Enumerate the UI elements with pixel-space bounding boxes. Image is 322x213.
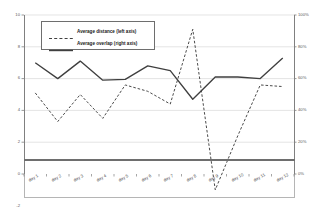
left-axis-tick-label: 6 — [2, 76, 20, 80]
left-axis-tick-label: 4 — [2, 108, 20, 112]
left-axis-line — [24, 15, 25, 174]
left-axis-tick-label: -2 — [2, 204, 20, 208]
legend-entry-average-overlap: Average overlap (right axis) — [49, 38, 137, 48]
right-axis-tick-label: 40% — [298, 108, 320, 112]
left-axis-tick-label: 10 — [2, 13, 20, 17]
legend-label-average-overlap: Average overlap (right axis) — [77, 41, 137, 46]
chart-legend: Average distance (left axis) Average ove… — [41, 21, 155, 50]
right-axis-tick-label: 100% — [298, 13, 320, 17]
chart-container: 1086420-2 100%80%60%40%20%0% day 1day 2d… — [0, 0, 322, 213]
left-axis-tick-label: 0 — [2, 172, 20, 176]
legend-entry-average-distance: Average distance (left axis) — [49, 26, 136, 36]
right-axis-tick-label: 20% — [298, 140, 320, 144]
legend-swatch-solid-icon — [49, 40, 73, 47]
right-axis-line — [294, 15, 295, 174]
right-axis-tick-label: 0% — [298, 172, 320, 176]
legend-swatch-dashed-icon — [49, 28, 73, 35]
left-axis-tick-label: 8 — [2, 45, 20, 49]
legend-label-average-distance: Average distance (left axis) — [77, 29, 136, 34]
right-axis-tick-label: 60% — [298, 76, 320, 80]
right-axis-tick-label: 80% — [298, 45, 320, 49]
x-axis-baseline — [24, 159, 295, 161]
left-axis-tick-label: 2 — [2, 140, 20, 144]
